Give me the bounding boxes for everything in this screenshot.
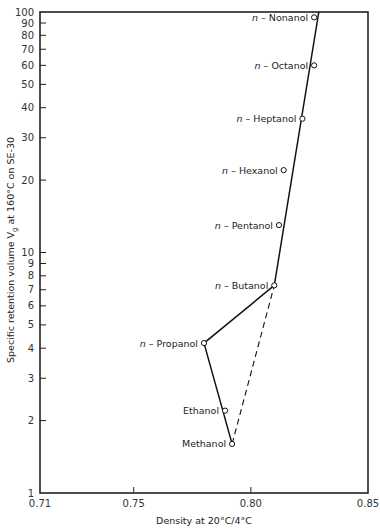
- point-label: n – Heptanol: [237, 113, 297, 124]
- data-point-n-nonanol: n – Nonanol: [252, 12, 317, 23]
- y-tick-label: 8: [28, 270, 34, 281]
- y-tick-label: 10: [21, 247, 34, 258]
- x-tick-label: 0.75: [123, 498, 145, 509]
- y-tick-label: 20: [21, 175, 34, 186]
- data-point-n-butanol: n – Butanol: [215, 280, 277, 291]
- point-label: n – Propanol: [140, 338, 198, 349]
- x-axis-ticks: 0.710.750.800.85: [29, 487, 379, 509]
- y-tick-label: 90: [21, 18, 34, 29]
- y-tick-label: 4: [28, 343, 34, 354]
- data-point-n-pentanol: n – Pentanol: [215, 220, 282, 231]
- point-label: Ethanol: [183, 405, 219, 416]
- retention-volume-chart: 123456789102030405060708090100 0.710.750…: [0, 0, 380, 529]
- point-marker: [276, 222, 281, 227]
- point-label: Methanol: [182, 438, 226, 449]
- y-tick-label: 6: [28, 300, 34, 311]
- y-tick-label: 3: [28, 373, 34, 384]
- point-label: n – Hexanol: [222, 165, 278, 176]
- plot-border: [40, 12, 368, 493]
- y-tick-label: 70: [21, 44, 34, 55]
- y-tick-label: 5: [28, 319, 34, 330]
- point-marker: [300, 116, 305, 121]
- data-point-n-octanol: n – Octanol: [255, 60, 317, 71]
- point-label: n – Butanol: [215, 280, 268, 291]
- data-point-methanol: Methanol: [182, 438, 235, 449]
- y-tick-label: 40: [21, 102, 34, 113]
- y-axis-title: Specific retention volume Vg at 160°C on…: [5, 137, 19, 363]
- point-marker: [272, 283, 277, 288]
- dashed-trend-line: [232, 285, 274, 444]
- y-axis-ticks: 123456789102030405060708090100: [15, 7, 46, 499]
- y-tick-label: 80: [21, 30, 34, 41]
- y-tick-label: 2: [28, 415, 34, 426]
- data-point-n-heptanol: n – Heptanol: [237, 113, 305, 124]
- y-tick-label: 50: [21, 79, 34, 90]
- y-tick-label: 9: [28, 258, 34, 269]
- point-marker: [312, 15, 317, 20]
- y-tick-label: 1: [28, 488, 34, 499]
- point-label: n – Pentanol: [215, 220, 273, 231]
- plot-frame: [40, 12, 368, 493]
- x-axis-title: Density at 20°C/4°C: [156, 515, 252, 526]
- x-tick-label: 0.80: [240, 498, 262, 509]
- point-label: n – Octanol: [255, 60, 309, 71]
- point-label: n – Nonanol: [252, 12, 308, 23]
- point-marker: [201, 341, 206, 346]
- point-marker: [230, 441, 235, 446]
- point-marker: [222, 408, 227, 413]
- y-tick-label: 100: [15, 7, 34, 18]
- data-points: MethanolEthanoln – Propanoln – Butanoln …: [140, 12, 317, 450]
- point-marker: [281, 168, 286, 173]
- x-tick-label: 0.85: [357, 498, 379, 509]
- x-tick-label: 0.71: [29, 498, 51, 509]
- y-tick-label: 30: [21, 132, 34, 143]
- data-point-n-hexanol: n – Hexanol: [222, 165, 286, 176]
- y-tick-label: 7: [28, 284, 34, 295]
- point-marker: [312, 63, 317, 68]
- y-tick-label: 60: [21, 60, 34, 71]
- data-point-n-propanol: n – Propanol: [140, 338, 207, 349]
